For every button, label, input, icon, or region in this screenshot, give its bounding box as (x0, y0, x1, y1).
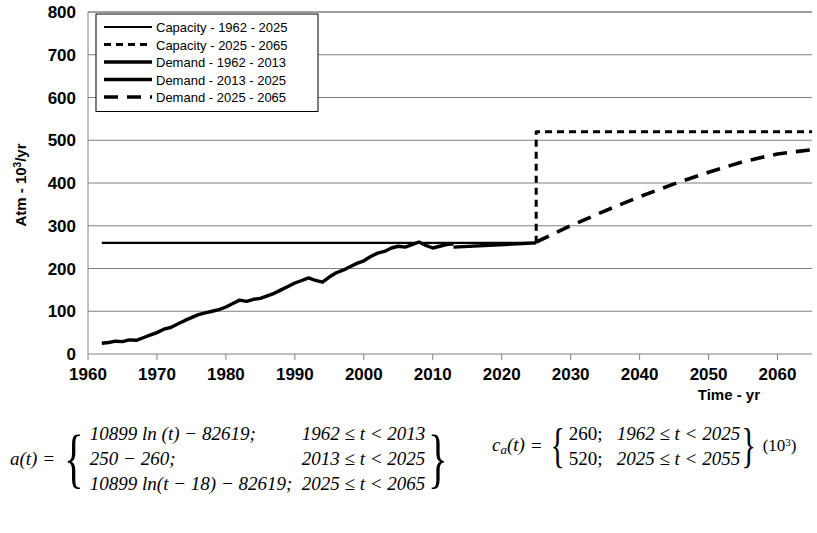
equation-ca-case-1: 520; 2025 ≤ t < 2055 (569, 446, 737, 471)
equation-ca-right-brace: } (741, 424, 755, 468)
equation-a-case-0: 10899 ln (t) − 82619; 1962 ≤ t < 2013 (90, 421, 422, 446)
y-axis-title: Atm - 103/yr (12, 143, 29, 226)
legend-label-4: Demand - 2025 - 2065 (156, 90, 286, 105)
equation-a-name: a(t) (10, 448, 39, 470)
x-tick-label-2040: 2040 (621, 365, 659, 384)
equation-a-case-0-cond: 1962 ≤ t < 2013 (302, 421, 422, 446)
y-tick-label-400: 400 (48, 174, 76, 193)
y-tick-label-800: 800 (48, 3, 76, 22)
equation-ca-case-0-cond: 1962 ≤ t < 2025 (617, 421, 737, 446)
y-tick-label-100: 100 (48, 302, 76, 321)
x-tick-label-2010: 2010 (414, 365, 452, 384)
equations-area: a(t) = { 10899 ln (t) − 82619; 1962 ≤ t … (0, 415, 817, 533)
equation-a: a(t) = { 10899 ln (t) − 82619; 1962 ≤ t … (10, 421, 454, 496)
chart-area: 0100200300400500600700800 19601970198019… (0, 0, 817, 415)
x-tick-label-2060: 2060 (759, 365, 797, 384)
legend-label-2: Demand - 1962 - 2013 (156, 55, 286, 70)
x-tick-label-2000: 2000 (345, 365, 383, 384)
equation-a-case-0-expr: 10899 ln (t) − 82619; (90, 421, 302, 446)
x-tick-label-2050: 2050 (690, 365, 728, 384)
x-tick-label-1970: 1970 (138, 365, 176, 384)
equation-ca-cases: 260; 1962 ≤ t < 2025 520; 2025 ≤ t < 205… (569, 421, 737, 471)
equation-ca-case-1-cond: 2025 ≤ t < 2055 (617, 446, 737, 471)
equation-a-case-1-expr: 250 − 260; (90, 446, 302, 471)
y-tick-label-0: 0 (67, 345, 76, 364)
x-tick-label-1990: 1990 (276, 365, 314, 384)
chart-legend: Capacity - 1962 - 2025Capacity - 2025 - … (96, 14, 318, 112)
equation-a-case-2: 10899 ln(t − 18) − 82619; 2025 ≤ t < 206… (90, 471, 422, 496)
equation-a-left-brace: { (64, 428, 84, 489)
legend-label-0: Capacity - 1962 - 2025 (156, 20, 288, 35)
y-tick-label-600: 600 (48, 89, 76, 108)
x-tick-label-1980: 1980 (207, 365, 245, 384)
equation-a-cases: 10899 ln (t) − 82619; 1962 ≤ t < 2013 25… (90, 421, 422, 496)
equation-a-right-brace: } (428, 428, 448, 489)
legend-label-1: Capacity - 2025 - 2065 (156, 38, 288, 53)
equation-ca-name: ca(t) (492, 434, 527, 458)
y-tick-label-700: 700 (48, 46, 76, 65)
equation-ca-units: (103) (760, 436, 797, 456)
y-tick-label-300: 300 (48, 217, 76, 236)
equation-ca-case-0-expr: 260; (569, 421, 617, 446)
y-tick-label-200: 200 (48, 260, 76, 279)
capacity-demand-line-chart: 0100200300400500600700800 19601970198019… (0, 0, 817, 415)
equation-a-case-2-cond: 2025 ≤ t < 2065 (302, 471, 422, 496)
equation-a-case-1-cond: 2013 ≤ t < 2025 (302, 446, 422, 471)
equation-ca-equals: = (527, 435, 546, 457)
x-axis-title: Time - yr (698, 386, 760, 403)
x-tick-label-2020: 2020 (483, 365, 521, 384)
equation-a-case-1: 250 − 260; 2013 ≤ t < 2025 (90, 446, 422, 471)
equation-a-equals: = (39, 448, 58, 470)
equation-ca-left-brace: { (550, 424, 564, 468)
figure-container: 0100200300400500600700800 19601970198019… (0, 0, 817, 533)
equation-ca: ca(t) = { 260; 1962 ≤ t < 2025 520; 2025… (492, 421, 797, 471)
equation-a-case-2-expr: 10899 ln(t − 18) − 82619; (90, 471, 302, 496)
y-tick-label-500: 500 (48, 131, 76, 150)
equation-ca-case-1-expr: 520; (569, 446, 617, 471)
y-axis-tick-labels: 0100200300400500600700800 (48, 3, 76, 364)
legend-label-3: Demand - 2013 - 2025 (156, 73, 286, 88)
equation-ca-case-0: 260; 1962 ≤ t < 2025 (569, 421, 737, 446)
x-tick-label-1960: 1960 (69, 365, 107, 384)
x-tick-label-2030: 2030 (552, 365, 590, 384)
